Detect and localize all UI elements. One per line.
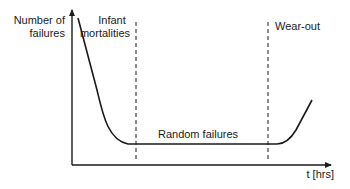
label-infant-line2: mortalities (80, 27, 131, 39)
x-axis-label: t [hrs] (306, 168, 334, 180)
label-wear-out: Wear-out (275, 20, 320, 32)
label-infant-line1: Infant (98, 14, 126, 26)
y-axis-label-line1: Number of (14, 14, 66, 26)
bathtub-diagram: Number of failures Infant mortalities Ra… (0, 0, 350, 189)
y-axis-label-line2: failures (30, 27, 66, 39)
label-random-failures: Random failures (158, 128, 239, 140)
